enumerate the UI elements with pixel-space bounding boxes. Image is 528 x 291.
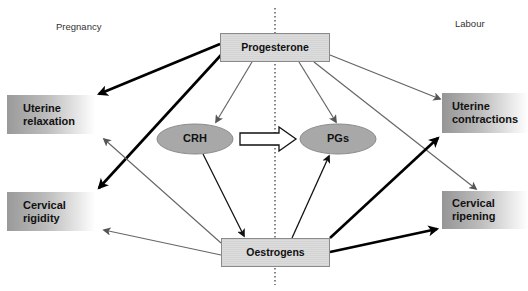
cervical-rigidity-line-2: rigidity <box>23 212 66 225</box>
phase-label-pregnancy: Pregnancy <box>56 21 101 32</box>
oestrogens-label: Oestrogens <box>246 246 304 259</box>
progesterone-label: Progesterone <box>241 41 309 54</box>
crh-label: CRH <box>157 132 233 144</box>
hollow-arrow-crh-to-pgs <box>240 127 296 151</box>
uterine-contractions-box: Uterine contractions <box>442 93 528 133</box>
arrow-progesterone-to-cervical-rigidity <box>99 55 221 188</box>
uterine-relaxation-box: Uterine relaxation <box>7 95 95 134</box>
uterine-contractions-line-2: contractions <box>452 113 518 126</box>
arrow-progesterone-to-uterine-relaxation <box>99 44 220 94</box>
arrow-oestrogens-to-pgs <box>292 156 329 238</box>
uterine-relaxation-line-2: relaxation <box>23 115 75 128</box>
arrow-crh-to-oestrogens <box>203 154 244 236</box>
cervical-rigidity-line-1: Cervical <box>23 199 66 212</box>
cervical-ripening-line-1: Cervical <box>452 197 495 210</box>
pgs-label: PGs <box>300 132 376 144</box>
oestrogens-box: Oestrogens <box>221 238 330 267</box>
progesterone-box: Progesterone <box>220 33 330 62</box>
arrow-oestrogens-to-cervical-ripening <box>330 229 437 252</box>
phase-label-labour: Labour <box>455 18 485 29</box>
cervical-rigidity-box: Cervical rigidity <box>7 192 95 231</box>
arrow-oestrogens-to-cervical-rigidity <box>104 230 221 255</box>
cervical-ripening-line-2: ripening <box>452 210 495 223</box>
cervical-ripening-box: Cervical ripening <box>442 191 528 229</box>
arrow-progesterone-to-pgs <box>299 62 336 122</box>
uterine-relaxation-line-1: Uterine <box>23 102 75 115</box>
uterine-contractions-line-1: Uterine <box>452 100 518 113</box>
arrow-progesterone-to-crh <box>216 62 252 122</box>
arrow-progesterone-to-uterine-contractions <box>330 55 440 99</box>
